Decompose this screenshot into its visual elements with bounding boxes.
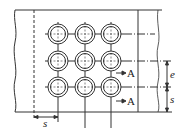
section-label-bottom: A <box>127 95 135 107</box>
arrow-icon <box>122 71 126 75</box>
hole-pattern-diagram: A A e s s <box>0 0 184 130</box>
pitch-right-label: s <box>170 93 174 105</box>
left-break-line <box>14 10 16 112</box>
arrow-icon <box>122 99 126 103</box>
edge-distance-label: e <box>170 68 175 80</box>
section-label-top: A <box>127 67 135 79</box>
hole-grid <box>48 24 121 97</box>
pitch-bottom-label: s <box>43 117 47 129</box>
